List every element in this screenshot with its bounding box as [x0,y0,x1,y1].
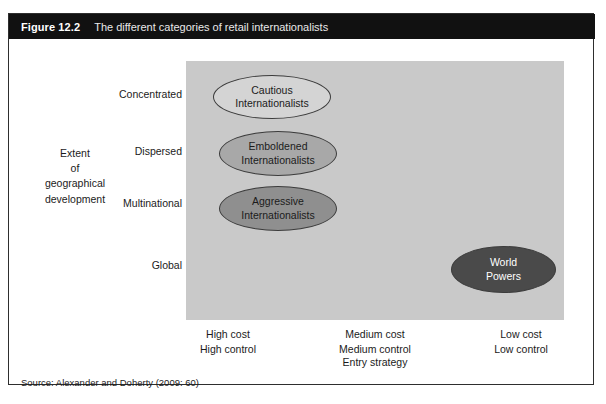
node-aggressive-internationalists[interactable]: Aggressive Internationalists [219,186,337,231]
x-axis-title: Entry strategy [300,356,450,368]
node-world-powers-label-line-2: Powers [486,270,521,283]
node-emboldened-internationalists[interactable]: Emboldened Internationalists [219,131,337,176]
plot-area: Cautious Internationalists Emboldened In… [186,61,564,320]
figure-number: Figure 12.2 [21,21,80,33]
node-world-powers[interactable]: World Powers [451,246,556,293]
figure-body: Extent of geographical development Conce… [9,39,595,385]
node-emboldened-label-line-2: Internationalists [241,154,315,167]
x-axis-label-medium-cost: Medium cost Medium control [300,327,450,357]
x-axis-label-low-cost-line-2: Low control [446,342,596,357]
x-axis-label-high-cost-line-1: High cost [153,327,303,342]
x-axis-label-low-cost-line-1: Low cost [446,327,596,342]
node-aggressive-label-line-1: Aggressive [252,195,304,208]
node-cautious-label-line-2: Internationalists [235,97,309,110]
x-axis-label-high-cost-line-2: High control [153,342,303,357]
figure-card: Figure 12.2 The different categories of … [8,13,594,385]
y-axis-label-global: Global [62,259,182,271]
figure-caption: The different categories of retail inter… [94,21,328,33]
node-aggressive-label-line-2: Internationalists [241,209,315,222]
node-world-powers-label-line-1: World [490,256,517,269]
x-axis-label-low-cost: Low cost Low control [446,327,596,357]
node-cautious-label-line-1: Cautious [251,84,292,97]
y-axis-label-dispersed: Dispersed [62,145,182,157]
node-cautious-internationalists[interactable]: Cautious Internationalists [213,75,331,119]
y-axis-label-concentrated: Concentrated [62,88,182,100]
node-emboldened-label-line-1: Emboldened [249,140,308,153]
x-axis-label-high-cost: High cost High control [153,327,303,357]
figure-header: Figure 12.2 The different categories of … [9,14,595,39]
y-axis-label-multinational: Multinational [62,197,182,209]
source-note: Source: Alexander and Doherty (2009: 60) [21,377,199,388]
x-axis-label-medium-cost-line-1: Medium cost [300,327,450,342]
